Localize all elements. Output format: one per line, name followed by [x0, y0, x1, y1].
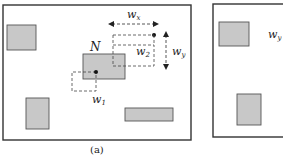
- node-N-rect: [83, 54, 125, 79]
- figure: N wx w2 wy w1 (a) wy: [0, 0, 283, 156]
- obstacle-rect: [125, 108, 173, 121]
- point-w1: [94, 70, 98, 74]
- obstacle-rect: [237, 94, 261, 125]
- obstacle-rect: [219, 22, 249, 46]
- caption-a: (a): [90, 144, 104, 155]
- obstacle-rect: [26, 98, 49, 129]
- obstacle-rect: [7, 25, 36, 50]
- label-N: N: [89, 40, 101, 54]
